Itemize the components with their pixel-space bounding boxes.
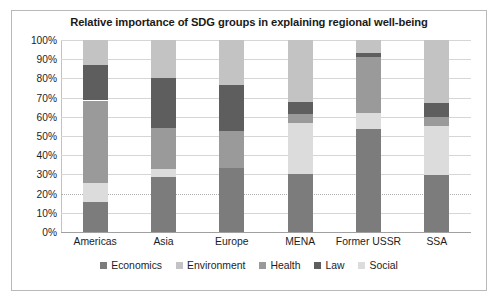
legend-item-health[interactable]: Health: [259, 260, 300, 271]
bar-segment-economics[interactable]: [356, 129, 381, 232]
bar-group-ssa[interactable]: [424, 40, 449, 232]
y-tick-label-80: 80%: [37, 73, 57, 84]
bar-segment-social[interactable]: [356, 113, 381, 129]
x-tick-label-americas: Americas: [61, 236, 129, 247]
bar-segment-law[interactable]: [288, 102, 313, 114]
stacked-bar[interactable]: [219, 40, 244, 232]
bar-segment-law[interactable]: [151, 78, 176, 128]
y-tick-label-60: 60%: [37, 111, 57, 122]
bar-segment-environment[interactable]: [288, 40, 313, 102]
gridline-60: [61, 117, 471, 118]
y-tick-label-70: 70%: [37, 92, 57, 103]
y-tick-label-90: 90%: [37, 54, 57, 65]
legend-item-economics[interactable]: Economics: [100, 260, 162, 271]
bar-segment-health[interactable]: [288, 114, 313, 123]
bar-segment-social[interactable]: [83, 183, 108, 202]
bar-segment-health[interactable]: [219, 131, 244, 167]
gridline-90: [61, 59, 471, 60]
x-tick-label-former-ussr: Former USSR: [334, 236, 402, 247]
bar-segment-health[interactable]: [151, 128, 176, 168]
plot-area: [61, 40, 471, 232]
stacked-bar[interactable]: [288, 40, 313, 232]
chart-container: Relative importance of SDG groups in exp…: [11, 10, 487, 291]
bar-segment-economics[interactable]: [288, 174, 313, 232]
bar-segment-environment[interactable]: [424, 40, 449, 103]
gridline-40: [61, 155, 471, 156]
gridline-20: [61, 194, 471, 195]
legend-label: Environment: [187, 260, 245, 271]
bar-group-europe[interactable]: [219, 40, 244, 232]
bar-segment-environment[interactable]: [83, 40, 108, 65]
x-tick-label-mena: MENA: [266, 236, 334, 247]
gridline-70: [61, 98, 471, 99]
bar-segment-economics[interactable]: [219, 168, 244, 232]
y-tick-label-100: 100%: [31, 35, 57, 46]
bar-segment-health[interactable]: [83, 101, 108, 184]
legend-item-environment[interactable]: Environment: [176, 260, 245, 271]
stacked-bar[interactable]: [356, 40, 381, 232]
y-tick-label-20: 20%: [37, 188, 57, 199]
bar-segment-environment[interactable]: [151, 40, 176, 78]
bar-segment-law[interactable]: [424, 103, 449, 116]
gridline-30: [61, 174, 471, 175]
stacked-bar[interactable]: [151, 40, 176, 232]
legend-label: Economics: [111, 260, 162, 271]
bar-segment-social[interactable]: [151, 169, 176, 178]
gridline-100: [61, 40, 471, 41]
y-tick-label-30: 30%: [37, 169, 57, 180]
chart-legend: EconomicsEnvironmentHealthLawSocial: [12, 260, 486, 271]
legend-swatch-social-icon: [358, 262, 365, 269]
gridline-10: [61, 213, 471, 214]
chart-title: Relative importance of SDG groups in exp…: [12, 16, 486, 28]
bar-segment-law[interactable]: [83, 65, 108, 101]
legend-label: Social: [369, 260, 397, 271]
legend-swatch-law-icon: [314, 262, 321, 269]
bar-segment-economics[interactable]: [83, 202, 108, 232]
bar-segment-social[interactable]: [288, 123, 313, 175]
bar-segment-social[interactable]: [424, 126, 449, 175]
legend-swatch-environment-icon: [176, 262, 183, 269]
bar-segment-economics[interactable]: [151, 177, 176, 232]
stacked-bar[interactable]: [83, 40, 108, 232]
bar-segment-health[interactable]: [356, 57, 381, 113]
bar-segment-environment[interactable]: [356, 40, 381, 53]
y-tick-label-50: 50%: [37, 131, 57, 142]
x-tick-label-ssa: SSA: [403, 236, 471, 247]
legend-item-social[interactable]: Social: [358, 260, 397, 271]
legend-label: Law: [325, 260, 344, 271]
bar-group-asia[interactable]: [151, 40, 176, 232]
bar-group-former-ussr[interactable]: [356, 40, 381, 232]
bar-segment-economics[interactable]: [424, 175, 449, 232]
legend-swatch-economics-icon: [100, 262, 107, 269]
y-tick-label-40: 40%: [37, 150, 57, 161]
bar-segment-health[interactable]: [424, 117, 449, 127]
gridline-80: [61, 78, 471, 79]
y-tick-label-10: 10%: [37, 207, 57, 218]
gridline-50: [61, 136, 471, 137]
bar-group-americas[interactable]: [83, 40, 108, 232]
stacked-bar[interactable]: [424, 40, 449, 232]
x-tick-label-asia: Asia: [129, 236, 197, 247]
bar-group-mena[interactable]: [288, 40, 313, 232]
bar-segment-environment[interactable]: [219, 40, 244, 85]
bar-segment-law[interactable]: [356, 53, 381, 57]
bar-segment-law[interactable]: [219, 85, 244, 131]
gridline-0: [61, 232, 471, 233]
y-axis-tick-labels: 100%90%80%70%60%50%40%30%20%10%0%: [12, 11, 57, 292]
legend-swatch-health-icon: [259, 262, 266, 269]
x-tick-label-europe: Europe: [198, 236, 266, 247]
y-tick-label-0: 0%: [42, 227, 57, 238]
legend-item-law[interactable]: Law: [314, 260, 344, 271]
legend-label: Health: [270, 260, 300, 271]
